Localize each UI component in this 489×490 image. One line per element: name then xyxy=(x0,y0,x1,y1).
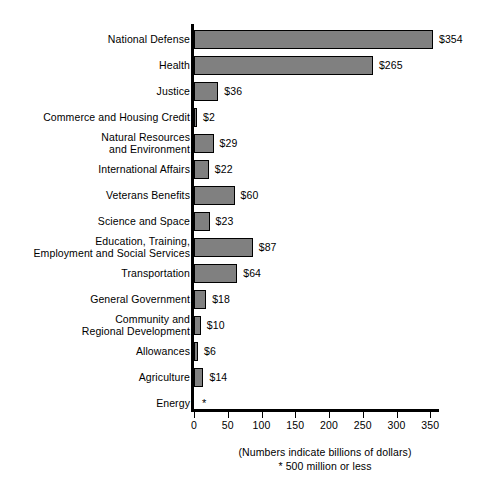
bar-group: $22 xyxy=(194,156,233,182)
bar-group: $6 xyxy=(194,338,216,364)
x-axis-tick xyxy=(363,412,364,418)
category-label-line: and Environment xyxy=(109,143,190,156)
bar-value-label: $23 xyxy=(216,215,234,227)
bar-group: $29 xyxy=(194,130,237,156)
bar-value-label: $18 xyxy=(212,293,230,305)
category-label: Agriculture xyxy=(4,364,190,390)
chart-row: International Affairs$22 xyxy=(0,156,489,182)
bar-value-label: $10 xyxy=(207,319,225,331)
chart-row: Science and Space$23 xyxy=(0,208,489,234)
x-axis-tick xyxy=(228,412,229,418)
bar-value-label: $22 xyxy=(215,163,233,175)
chart-row: Agriculture$14 xyxy=(0,364,489,390)
y-axis-line xyxy=(191,24,194,412)
x-axis-tick xyxy=(295,412,296,418)
category-label-line: Education, Training, xyxy=(95,235,190,248)
bar-value-label: $354 xyxy=(439,33,463,45)
category-label: General Government xyxy=(4,286,190,312)
footnote-units: (Numbers indicate billions of dollars) xyxy=(195,445,455,459)
chart-row: Community andRegional Development$10 xyxy=(0,312,489,338)
bar[interactable] xyxy=(194,160,209,179)
category-label: Allowances xyxy=(4,338,190,364)
bar-group: $10 xyxy=(194,312,225,338)
category-label: Community andRegional Development xyxy=(4,312,190,338)
x-axis-tick xyxy=(397,412,398,418)
category-label: Justice xyxy=(4,78,190,104)
category-label: Education, Training,Employment and Socia… xyxy=(4,234,190,260)
bar-value-label: $2 xyxy=(203,111,215,123)
category-label: Science and Space xyxy=(4,208,190,234)
category-label: Transportation xyxy=(4,260,190,286)
bar-value-label: $64 xyxy=(243,267,261,279)
chart-row: Allowances$6 xyxy=(0,338,489,364)
chart-row: Natural Resourcesand Environment$29 xyxy=(0,130,489,156)
bar-group: $18 xyxy=(194,286,230,312)
bar[interactable] xyxy=(194,368,203,387)
category-label-line: Transportation xyxy=(121,267,190,280)
bar-group: $265 xyxy=(194,52,403,78)
chart-row: Health$265 xyxy=(0,52,489,78)
plot-area: National Defense$354Health$265Justice$36… xyxy=(0,0,489,415)
category-label-line: Allowances xyxy=(136,345,190,358)
chart-row: Commerce and Housing Credit$2 xyxy=(0,104,489,130)
bar[interactable] xyxy=(194,56,373,75)
category-label-line: Agriculture xyxy=(139,371,190,384)
budget-bar-chart: National Defense$354Health$265Justice$36… xyxy=(0,0,489,490)
x-axis-tick-label: 350 xyxy=(410,419,450,432)
category-label-line: Justice xyxy=(157,85,190,98)
bar[interactable] xyxy=(194,316,201,335)
bar[interactable] xyxy=(194,238,253,257)
category-label-line: General Government xyxy=(90,293,190,306)
bar-value-label: $87 xyxy=(259,241,277,253)
bar[interactable] xyxy=(194,264,237,283)
bar[interactable] xyxy=(194,30,433,49)
bar-value-label: $14 xyxy=(209,371,227,383)
bar-group: $64 xyxy=(194,260,261,286)
bar-group: $87 xyxy=(194,234,277,260)
bar-group: $60 xyxy=(194,182,258,208)
category-label: Health xyxy=(4,52,190,78)
category-label: Natural Resourcesand Environment xyxy=(4,130,190,156)
bar-group: $2 xyxy=(194,104,215,130)
bar[interactable] xyxy=(194,82,218,101)
category-label-line: Veterans Benefits xyxy=(106,189,190,202)
category-label-line: National Defense xyxy=(108,33,190,46)
bar[interactable] xyxy=(194,212,210,231)
bar-group: $14 xyxy=(194,364,227,390)
chart-row: Education, Training,Employment and Socia… xyxy=(0,234,489,260)
x-axis-tick xyxy=(194,412,195,418)
category-label-line: Health xyxy=(159,59,190,72)
category-label-line: Employment and Social Services xyxy=(34,247,191,260)
bar-value-label: $29 xyxy=(220,137,238,149)
category-label-line: Energy xyxy=(156,397,190,410)
category-label-line: Community and xyxy=(115,313,190,326)
chart-row: National Defense$354 xyxy=(0,26,489,52)
category-label: International Affairs xyxy=(4,156,190,182)
category-label: National Defense xyxy=(4,26,190,52)
chart-row: Transportation$64 xyxy=(0,260,489,286)
bar-value-label: $265 xyxy=(379,59,403,71)
bar-value-label: $36 xyxy=(224,85,242,97)
bar[interactable] xyxy=(194,290,206,309)
bar[interactable] xyxy=(194,108,197,127)
bar-group: $354 xyxy=(194,26,463,52)
chart-row: General Government$18 xyxy=(0,286,489,312)
category-label: Commerce and Housing Credit xyxy=(4,104,190,130)
bar-group: $23 xyxy=(194,208,233,234)
category-label-line: Science and Space xyxy=(98,215,190,228)
chart-row: Veterans Benefits$60 xyxy=(0,182,489,208)
x-axis-tick xyxy=(430,412,431,418)
chart-row: Energy* xyxy=(0,390,489,416)
bar-group: $36 xyxy=(194,78,242,104)
x-axis-tick xyxy=(329,412,330,418)
category-label-line: Commerce and Housing Credit xyxy=(43,111,190,124)
bar-group: * xyxy=(194,390,206,416)
bar-value-label: * xyxy=(202,397,206,409)
bar[interactable] xyxy=(194,134,214,153)
chart-row: Justice$36 xyxy=(0,78,489,104)
bar[interactable] xyxy=(194,342,198,361)
footnote-asterisk: * 500 million or less xyxy=(195,459,455,473)
category-label: Energy xyxy=(4,390,190,416)
bar-value-label: $60 xyxy=(241,189,259,201)
bar[interactable] xyxy=(194,186,235,205)
